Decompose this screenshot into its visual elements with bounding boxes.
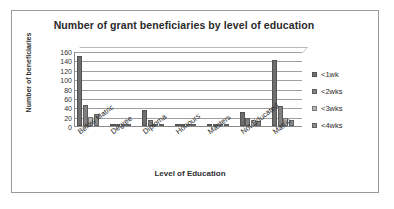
legend-item[interactable]: <3wks [312,100,374,117]
bar-group [272,52,305,126]
y-axis-tick-label: 80 [64,87,72,94]
bar [77,56,82,126]
chart-frame: Number of grant beneficiaries by level o… [11,10,379,193]
y-axis-tick-label: 100 [60,77,72,84]
legend-label: <4wks [321,121,342,130]
legend-item[interactable]: <4wks [312,117,374,134]
legend-swatch-icon [312,123,317,128]
legend-item[interactable]: <1wk [312,66,374,83]
legend-swatch-icon [312,106,317,111]
y-axis-tick-label: 160 [60,49,72,56]
legend-swatch-icon [312,72,317,77]
legend-label: <2wks [321,87,342,96]
y-axis-tick-label: 140 [60,58,72,65]
chart-legend: <1wk<2wks<3wks<4wks [312,66,374,134]
bar [272,60,277,126]
legend-item[interactable]: <2wks [312,83,374,100]
y-axis-tick-label: 120 [60,68,72,75]
y-axis-tick-labels: 160140120100806040200 [46,49,72,127]
y-axis-tick-label: 60 [64,96,72,103]
y-axis-tick-label: 20 [64,115,72,122]
y-axis-tick-label: 0 [68,124,72,131]
y-axis-tick-label: 40 [64,105,72,112]
legend-swatch-icon [312,89,317,94]
y-axis-title: Number of beneficiaries [25,33,32,113]
legend-label: <1wk [321,70,339,79]
legend-label: <3wks [321,104,342,113]
x-axis-title: Level of Education [74,169,306,178]
chart-title: Number of grant beneficiaries by level o… [34,19,334,32]
